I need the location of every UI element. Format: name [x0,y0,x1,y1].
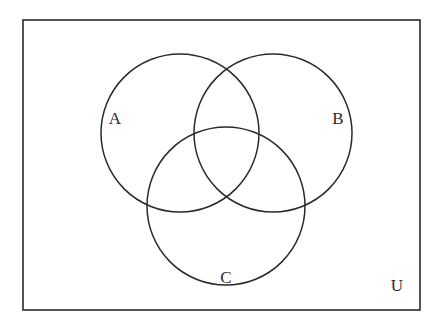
set-c-circle [147,127,305,285]
universe-label: U [391,276,403,295]
set-a-label: A [109,109,122,128]
universe-rectangle [23,20,420,310]
set-b-circle [194,54,352,212]
set-b-label: B [332,109,343,128]
venn-diagram: A B C U [0,0,441,324]
set-c-label: C [220,268,231,287]
set-a-circle [101,54,259,212]
